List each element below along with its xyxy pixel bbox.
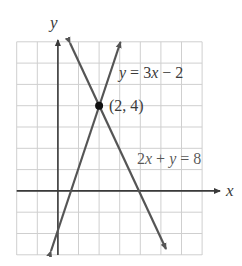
label-line-2-var1: x [144, 150, 152, 167]
label-line-2-mid: + [152, 150, 169, 167]
graph-canvas: y x y = 3x − 2 (2, 4) 2x + y = 8 [0, 0, 242, 266]
y-axis-label: y [48, 13, 58, 32]
line-y-equals-3x-minus-2 [51, 42, 121, 251]
label-point: (2, 4) [109, 97, 144, 115]
label-line-2-coef: 2 [137, 150, 145, 167]
label-line-1-var: x [150, 64, 158, 81]
label-line-1-tail: − 2 [158, 64, 183, 81]
intersection-point [95, 102, 103, 110]
label-line-1: y = 3x − 2 [117, 64, 183, 82]
label-line-1-rest: = 3 [126, 64, 151, 81]
label-line-2-tail: = 8 [176, 150, 201, 167]
x-axis-label: x [225, 181, 234, 200]
label-line-2: 2x + y = 8 [137, 150, 201, 168]
